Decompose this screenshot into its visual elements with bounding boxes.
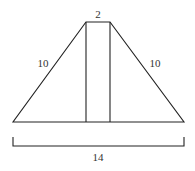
left-side-label: 10 <box>38 57 50 69</box>
trapezoid-diagram: 2 10 10 14 <box>0 0 195 171</box>
trapezoid-outline <box>13 22 184 122</box>
top-width-label: 2 <box>95 8 101 20</box>
right-side-label: 10 <box>150 57 162 69</box>
base-width-label: 14 <box>93 151 105 163</box>
base-dimension-bracket <box>13 137 184 146</box>
